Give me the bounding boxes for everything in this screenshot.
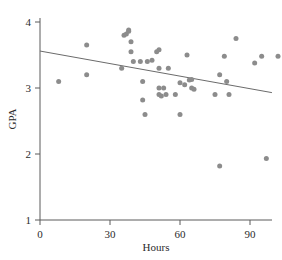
data-point: [264, 156, 269, 161]
data-point: [140, 97, 145, 102]
data-point: [185, 53, 190, 58]
data-point: [173, 92, 178, 97]
data-point: [276, 54, 281, 59]
x-tick-label: 90: [245, 228, 257, 240]
y-tick-label: 1: [26, 214, 32, 226]
data-point: [164, 92, 169, 97]
data-point: [145, 59, 150, 64]
x-axis-title: Hours: [143, 241, 170, 253]
y-tick-label: 2: [26, 148, 32, 160]
data-point: [157, 47, 162, 52]
data-point: [161, 86, 166, 91]
data-point: [84, 43, 89, 48]
data-point: [119, 66, 124, 71]
data-point: [182, 82, 187, 87]
x-tick-label: 0: [37, 228, 43, 240]
data-point: [222, 54, 227, 59]
data-point: [252, 60, 257, 65]
data-point: [138, 59, 143, 64]
data-point: [217, 163, 222, 168]
data-point: [178, 112, 183, 117]
data-point: [178, 80, 183, 85]
data-point: [129, 49, 134, 54]
data-point: [227, 92, 232, 97]
data-point: [140, 79, 145, 84]
data-point: [192, 87, 197, 92]
data-point: [224, 79, 229, 84]
data-point: [56, 79, 61, 84]
y-tick-label: 4: [26, 16, 32, 28]
data-point: [129, 39, 134, 44]
data-point: [126, 29, 131, 34]
data-point: [213, 92, 218, 97]
data-point: [131, 59, 136, 64]
chart-canvas: 0306090 1234 Hours GPA: [0, 0, 282, 260]
x-tick-label: 60: [175, 228, 187, 240]
chart-background: [0, 0, 282, 260]
data-point: [157, 86, 162, 91]
x-tick-label: 30: [105, 228, 117, 240]
data-point: [159, 93, 164, 98]
data-point: [84, 72, 89, 77]
data-point: [217, 72, 222, 77]
data-point: [157, 66, 162, 71]
data-point: [166, 66, 171, 71]
data-point: [234, 36, 239, 41]
data-point: [189, 77, 194, 82]
data-point: [143, 112, 148, 117]
y-tick-label: 3: [26, 82, 32, 94]
scatter-chart: 0306090 1234 Hours GPA: [0, 0, 282, 260]
data-point: [259, 54, 264, 59]
y-axis-title: GPA: [6, 108, 18, 129]
data-point: [150, 58, 155, 63]
